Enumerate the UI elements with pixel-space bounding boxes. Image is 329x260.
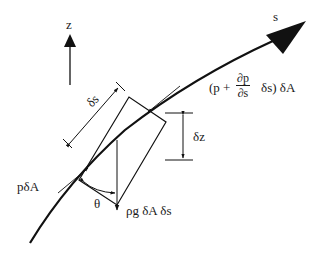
diagram-canvas	[0, 0, 329, 260]
z-axis-arrow-icon	[64, 34, 76, 85]
s-axis-label: s	[273, 10, 278, 23]
s-arrowhead-icon	[266, 21, 306, 54]
downstream-pressure-arrow	[148, 86, 180, 112]
delta-z-dimension	[165, 113, 193, 160]
delta-z-label: δz	[193, 130, 205, 143]
frac-numerator: ∂p	[236, 72, 250, 86]
expr-open: (p +	[209, 81, 230, 94]
theta-angle-arc	[84, 182, 115, 193]
upstream-pressure-arrow	[58, 168, 88, 193]
theta-label: θ	[94, 197, 100, 210]
streamline-force-diagram: z s δs δz pδA θ ρg δA δs (p + ∂p ∂s δs) …	[0, 0, 329, 260]
frac-denominator: ∂s	[236, 86, 250, 99]
partial-fraction: ∂p ∂s	[236, 72, 250, 99]
expr-close: δs) δA	[261, 81, 295, 94]
fluid-element-rectangle	[79, 97, 166, 205]
upstream-pressure-label: pδA	[17, 180, 39, 193]
weight-label: ρg δA δs	[126, 204, 171, 217]
z-axis-label: z	[66, 18, 72, 31]
